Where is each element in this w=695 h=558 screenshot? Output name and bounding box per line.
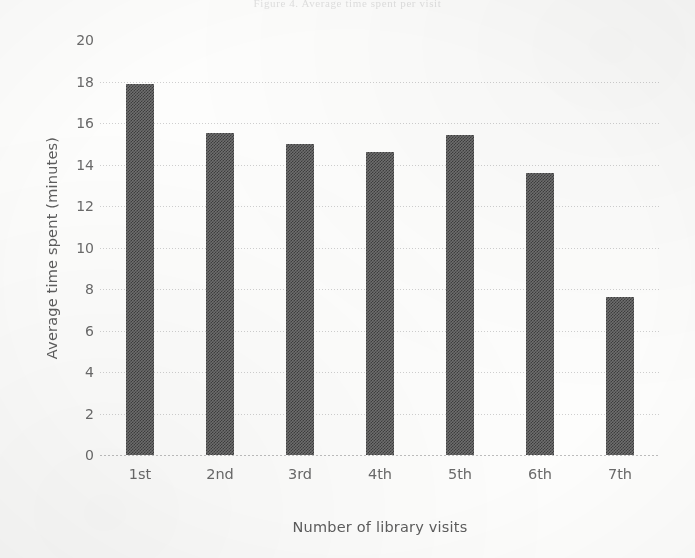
- x-tick-label: 4th: [350, 466, 410, 482]
- x-tick-label: 6th: [510, 466, 570, 482]
- bar: [446, 135, 474, 455]
- x-tick-label: 7th: [590, 466, 650, 482]
- x-tick-label: 1st: [110, 466, 170, 482]
- bar: [526, 173, 554, 455]
- x-axis-title: Number of library visits: [100, 519, 660, 535]
- y-tick-label: 8: [52, 282, 94, 296]
- y-tick-label: 10: [52, 241, 94, 255]
- gridline: [100, 123, 660, 124]
- x-axis-tick-labels: 1st2nd3rd4th5th6th7th: [100, 466, 660, 490]
- x-tick-label: 3rd: [270, 466, 330, 482]
- scan-page-surface: Figure 4. Average time spent per visit A…: [0, 0, 695, 558]
- bar-chart: Average time spent (minutes) 20181614121…: [0, 0, 695, 558]
- y-tick-label: 4: [52, 365, 94, 379]
- y-tick-label: 20: [52, 33, 94, 47]
- x-tick-label: 2nd: [190, 466, 250, 482]
- y-axis-tick-labels: 20181614121086420: [52, 30, 94, 456]
- bar: [206, 133, 234, 455]
- y-tick-label: 2: [52, 407, 94, 421]
- y-tick-label: 18: [52, 75, 94, 89]
- y-tick-label: 0: [52, 448, 94, 462]
- axis-baseline: [100, 455, 660, 456]
- bar: [606, 297, 634, 455]
- y-tick-label: 12: [52, 199, 94, 213]
- gridline: [100, 82, 660, 83]
- y-tick-label: 14: [52, 158, 94, 172]
- y-tick-label: 16: [52, 116, 94, 130]
- plot-area: [100, 40, 660, 455]
- x-tick-label: 5th: [430, 466, 490, 482]
- bar: [366, 152, 394, 455]
- y-tick-label: 6: [52, 324, 94, 338]
- bar: [126, 84, 154, 455]
- bar: [286, 144, 314, 455]
